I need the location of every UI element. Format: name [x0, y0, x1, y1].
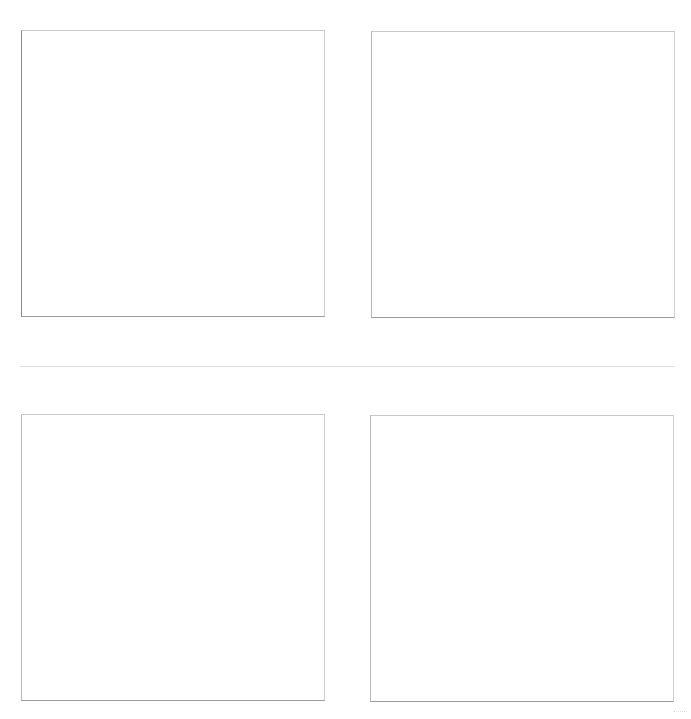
- panel-bottom-right: [370, 415, 674, 702]
- panel-top-right: [371, 31, 675, 318]
- corner-mark: [673, 711, 687, 716]
- panel-top-left: [21, 30, 325, 317]
- panel-bottom-left: [21, 414, 325, 701]
- horizontal-divider: [20, 366, 675, 367]
